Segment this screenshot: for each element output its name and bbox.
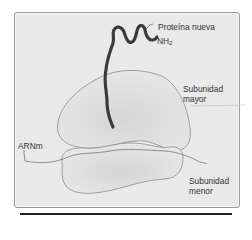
mrna-label: ARNm xyxy=(18,141,43,151)
minor-subunit-shape xyxy=(62,143,183,193)
major-subunit-shape xyxy=(58,70,191,150)
minor-subunit-label: Subunidadmenor xyxy=(189,176,229,196)
nh2-label: NH2 xyxy=(157,36,172,48)
bottom-rule xyxy=(20,213,232,215)
major-subunit-label: Subunidadmayor xyxy=(183,84,223,104)
protein-label: Proteína nueva xyxy=(158,22,215,32)
